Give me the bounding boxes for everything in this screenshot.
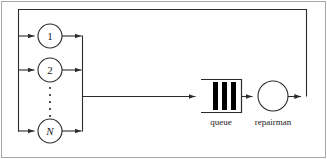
ellipsis-dot <box>49 108 51 110</box>
machine-label-1: 1 <box>47 30 53 42</box>
figure-machine-repairman-diagram: 1 2 N queue repairman <box>0 0 327 159</box>
queue-job-bar <box>222 82 227 110</box>
ellipsis-dot <box>49 115 51 117</box>
machine-label-2: 2 <box>47 64 53 76</box>
machine-node-2: 2 <box>38 58 62 82</box>
machine-node-n: N <box>38 119 62 143</box>
machine-node-1: 1 <box>38 24 62 48</box>
repairman-node <box>258 81 288 111</box>
queue-job-bars <box>213 82 236 110</box>
queue-box <box>201 80 242 113</box>
queue-job-bar <box>231 82 236 110</box>
repairman-circle <box>258 81 288 111</box>
diagram-canvas: 1 2 N queue repairman <box>0 0 327 159</box>
machine-label-n: N <box>45 125 54 137</box>
queue-caption: queue <box>210 117 232 127</box>
ellipsis-dot <box>49 87 51 89</box>
ellipsis-dot <box>49 94 51 96</box>
repairman-caption: repairman <box>255 117 292 127</box>
ellipsis-dot <box>49 101 51 103</box>
queue-job-bar <box>213 82 218 110</box>
